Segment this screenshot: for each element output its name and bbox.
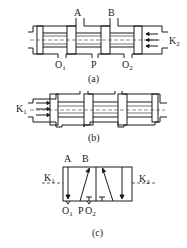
symbol-pilot-k1: K1 <box>44 173 55 186</box>
caption-b: (b) <box>88 133 100 143</box>
pilot-arrows-k2 <box>146 33 158 48</box>
port-label-p: P <box>91 60 97 70</box>
port-label-o2: O2 <box>122 60 133 73</box>
symbol-port-o1: O1 <box>62 206 73 219</box>
valve-section-b <box>28 91 167 127</box>
symbol-port-p: P <box>78 206 84 216</box>
pilot-label-k1: K1 <box>16 104 27 117</box>
valve-section-a <box>28 18 168 58</box>
port-label-a: A <box>74 8 81 18</box>
pilot-arrows-k1 <box>36 102 50 117</box>
port-label-o1: O1 <box>55 60 66 73</box>
port-label-b: B <box>108 8 115 18</box>
caption-c: (c) <box>92 228 103 238</box>
pilot-label-k2: K2 <box>169 36 180 49</box>
symbol-pilot-k2: K2 <box>139 174 150 187</box>
caption-a: (a) <box>88 74 99 84</box>
symbol-port-o2: O2 <box>85 206 96 219</box>
symbol-port-a: A <box>64 154 71 164</box>
symbol-port-b: B <box>82 154 89 164</box>
